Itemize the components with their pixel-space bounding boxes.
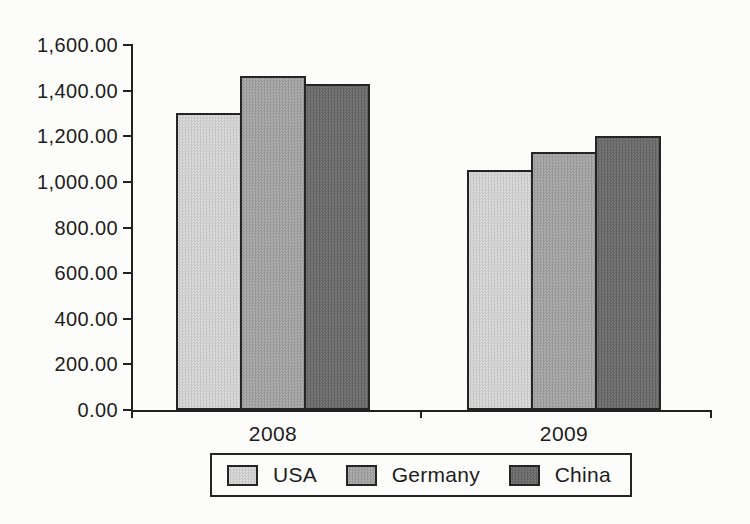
bar-china-2008 bbox=[304, 84, 370, 410]
y-axis-tick bbox=[123, 90, 133, 92]
legend-swatch-germany bbox=[346, 465, 377, 486]
y-axis-tick bbox=[123, 181, 133, 183]
bar-germany-2009 bbox=[531, 152, 597, 410]
y-axis-tick bbox=[123, 363, 133, 365]
legend-swatch-china bbox=[509, 465, 540, 486]
y-axis-tick bbox=[123, 44, 133, 46]
y-axis-tick-label: 1,200.00 bbox=[37, 126, 118, 149]
y-axis-tick-label: 0.00 bbox=[77, 399, 118, 422]
x-axis-tick bbox=[420, 410, 422, 418]
bar-usa-2009 bbox=[467, 170, 533, 410]
bar-group-2009 bbox=[467, 45, 661, 410]
legend-label-germany: Germany bbox=[392, 463, 480, 487]
y-axis-tick bbox=[123, 135, 133, 137]
chart-figure: 1,600.001,400.001,200.001,000.00800.0060… bbox=[0, 0, 750, 524]
y-axis-tick-label: 1,400.00 bbox=[37, 80, 118, 103]
legend: USAGermanyChina bbox=[210, 453, 632, 497]
y-axis-tick-label: 1,000.00 bbox=[37, 171, 118, 194]
x-axis-category-label: 2009 bbox=[540, 422, 588, 446]
y-axis-line bbox=[131, 45, 133, 418]
y-axis-tick bbox=[123, 227, 133, 229]
legend-label-usa: USA bbox=[273, 463, 317, 487]
y-axis-tick-label: 400.00 bbox=[54, 308, 118, 331]
y-axis-tick-label: 600.00 bbox=[54, 263, 118, 286]
legend-entry-usa: USA bbox=[227, 463, 317, 487]
legend-entry-germany: Germany bbox=[346, 463, 480, 487]
y-axis-tick-label: 1,600.00 bbox=[37, 34, 118, 57]
y-axis-tick bbox=[123, 409, 133, 411]
bar-usa-2008 bbox=[176, 113, 242, 410]
bar-group-2008 bbox=[176, 45, 370, 410]
legend-swatch-usa bbox=[227, 465, 258, 486]
legend-label-china: China bbox=[555, 463, 611, 487]
legend-entry-china: China bbox=[509, 463, 611, 487]
y-axis-tick bbox=[123, 272, 133, 274]
y-axis-tick-label: 200.00 bbox=[54, 354, 118, 377]
x-axis-category-label: 2008 bbox=[249, 422, 297, 446]
y-axis-tick bbox=[123, 318, 133, 320]
x-axis-tick bbox=[710, 410, 712, 418]
plot-area: 1,600.001,400.001,200.001,000.00800.0060… bbox=[131, 45, 712, 410]
y-axis-tick-label: 800.00 bbox=[54, 217, 118, 240]
bar-china-2009 bbox=[595, 136, 661, 410]
bar-germany-2008 bbox=[240, 76, 306, 410]
